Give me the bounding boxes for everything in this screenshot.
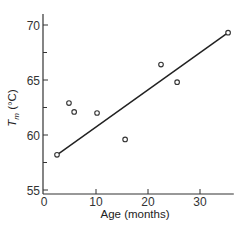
- data-point-marker: [159, 62, 164, 67]
- y-tick-label: 55: [27, 184, 41, 198]
- data-point-marker: [95, 111, 100, 116]
- y-tick-label: 65: [27, 74, 41, 88]
- x-axis-label: Age (months): [100, 208, 169, 220]
- axes: 556065700102030: [27, 14, 234, 209]
- data-point-marker: [72, 110, 77, 115]
- data-point-marker: [175, 80, 180, 85]
- data-point-marker: [226, 30, 231, 35]
- data-point-marker: [55, 153, 60, 158]
- y-tick-label: 70: [27, 19, 41, 33]
- scatter-chart: 556065700102030 Age (months) Tm (°C): [0, 0, 241, 231]
- x-tick-label: 30: [193, 195, 207, 209]
- x-tick-label: 10: [89, 195, 103, 209]
- data-point-marker: [123, 137, 128, 142]
- x-tick-label: 20: [141, 195, 155, 209]
- regression-line: [57, 33, 228, 155]
- fit-line: [57, 33, 228, 155]
- data-point-marker: [67, 101, 72, 106]
- y-axis-label: Tm (°C): [6, 89, 21, 127]
- y-label-unit: (°C): [6, 89, 18, 113]
- y-tick-label: 60: [27, 129, 41, 143]
- x-tick-label: 0: [41, 195, 48, 209]
